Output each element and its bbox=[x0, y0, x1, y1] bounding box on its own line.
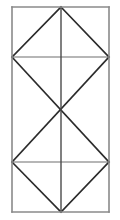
bottom-left-diagonal bbox=[12, 162, 61, 212]
top-right-diagonal bbox=[61, 7, 109, 57]
top-left-diagonal bbox=[12, 7, 61, 57]
figure-canvas: Geometric line figure bbox=[0, 0, 120, 220]
geometric-figure: Geometric line figure bbox=[0, 0, 120, 220]
bottom-right-diagonal bbox=[61, 162, 109, 212]
